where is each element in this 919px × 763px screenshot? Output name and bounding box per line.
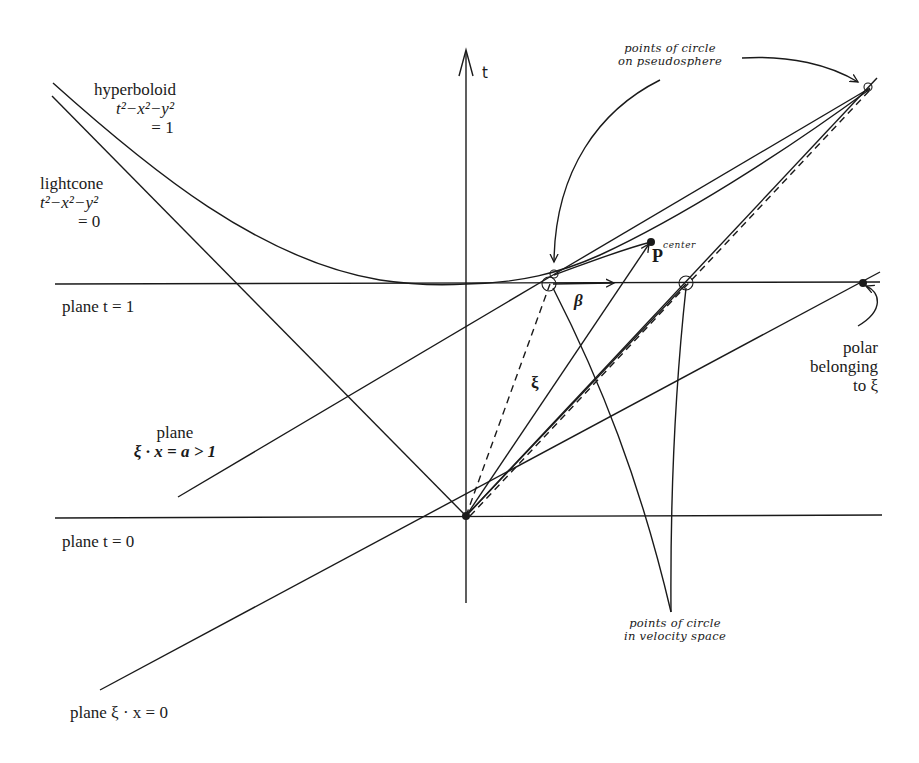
plane-xi-a-label: plane ξ · x = a > 1: [110, 423, 240, 461]
lightcone-label: lightcone t²−x²−y² = 0: [40, 174, 150, 231]
beta-arrow: [553, 283, 614, 284]
plane-t0-label: plane t = 0: [62, 532, 134, 551]
center-point-label: P: [652, 247, 663, 266]
plane-xi-a-equation: ξ · x = a > 1: [110, 442, 240, 461]
hyperboloid-name: hyperboloid: [76, 80, 194, 99]
hyperboloid-label: hyperboloid t²−x²−y² = 1: [76, 80, 194, 137]
origin-point: [462, 512, 470, 520]
pseudosphere-pointer-right: [742, 57, 858, 82]
hyperboloid-equation: t²−x²−y²: [76, 99, 194, 118]
velocity-note-line2: in velocity space: [600, 630, 750, 643]
lightcone-equation: t²−x²−y²: [40, 193, 150, 212]
velocity-pointer-2: [671, 288, 686, 612]
polar-note: polar belonging to ξ: [790, 338, 878, 395]
polar-note-line3: to ξ: [790, 376, 878, 395]
center-point-P: [647, 238, 655, 246]
pseudosphere-pointer-left: [554, 80, 660, 262]
plane-xi-a-line: [178, 275, 553, 497]
velocity-note: points of circle in velocity space: [600, 617, 750, 643]
lightcone-name: lightcone: [40, 174, 150, 193]
beta-label: β: [574, 291, 583, 310]
dashed-line-right: [470, 90, 870, 516]
xi-vector: [466, 244, 649, 516]
polar-note-line2: belonging: [790, 357, 878, 376]
polar-pointer: [858, 286, 877, 326]
center-word-label: center: [663, 236, 696, 255]
polar-point: [859, 279, 867, 287]
polar-note-line1: polar: [790, 338, 878, 357]
pseudosphere-note-line2: on pseudosphere: [600, 55, 740, 68]
t-axis-label: t: [482, 64, 488, 83]
hyperboloid-equation-rhs: = 1: [76, 118, 194, 137]
lightcone-equation-rhs: = 0: [40, 212, 150, 231]
circle-arc-pseudosphere: [554, 242, 651, 275]
pseudosphere-note: points of circle on pseudosphere: [600, 42, 740, 68]
plane-xi-0-label: plane ξ · x = 0: [70, 703, 168, 722]
plane-xi-a-word: plane: [110, 423, 240, 442]
plane-t1-label: plane t = 1: [62, 297, 134, 316]
xi-label: ξ: [531, 373, 539, 392]
velocity-pointer-1: [553, 288, 671, 612]
